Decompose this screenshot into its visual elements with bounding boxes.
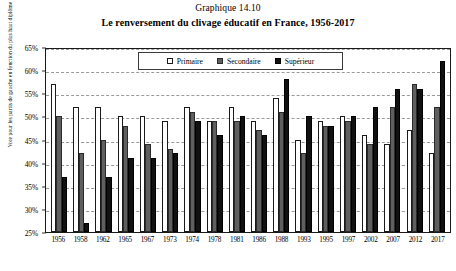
x-axis-tick-label: 1997 [337, 236, 359, 250]
bar-superieur [62, 177, 67, 233]
legend-item-secondaire: Secondaire [217, 57, 261, 66]
bar-group [270, 49, 292, 232]
bar-superieur [151, 158, 156, 232]
x-axis-tick-label: 2012 [404, 236, 426, 250]
y-axis-tick-label: 60% [8, 67, 38, 76]
legend-swatch-superieur [275, 58, 281, 64]
bar-group [137, 49, 159, 232]
x-axis-tick-label: 2002 [360, 236, 382, 250]
bar-superieur [395, 89, 400, 232]
y-axis-tick-label: 55% [8, 90, 38, 99]
y-axis-tick-label: 50% [8, 113, 38, 122]
bar-superieur [373, 107, 378, 232]
bar-group [404, 49, 426, 232]
legend-label-superieur: Supérieur [285, 57, 315, 66]
x-axis-tick-label: 1995 [315, 236, 337, 250]
bar-group [48, 49, 70, 232]
bar-superieur [284, 79, 289, 232]
y-axis-tick-label: 65% [8, 44, 38, 53]
bar-secondaire [79, 153, 84, 232]
bar-group [115, 49, 137, 232]
x-axis-tick-label: 1981 [226, 236, 248, 250]
plot-area [45, 48, 451, 233]
bar-superieur [195, 121, 200, 232]
bar-superieur [240, 116, 245, 232]
bar-group [204, 49, 226, 232]
bar-group [92, 49, 114, 232]
bar-superieur [417, 89, 422, 232]
y-axis-tick-label: 25% [8, 229, 38, 238]
bar-superieur [351, 116, 356, 232]
x-axis-tick-label: 1956 [47, 236, 69, 250]
x-axis-tick-label: 1967 [136, 236, 158, 250]
bar-group [159, 49, 181, 232]
bar-superieur [328, 126, 333, 232]
y-axis-tick-label: 30% [8, 205, 38, 214]
bar-group [381, 49, 403, 232]
x-axis-tick-label: 1978 [203, 236, 225, 250]
bar-superieur [84, 223, 89, 232]
bar-group [359, 49, 381, 232]
bar-superieur [440, 61, 445, 232]
x-axis-tick-label: 1988 [270, 236, 292, 250]
bar-group [248, 49, 270, 232]
bar-group [181, 49, 203, 232]
legend-item-superieur: Supérieur [275, 57, 315, 66]
bar-superieur [262, 135, 267, 232]
bar-superieur [128, 158, 133, 232]
legend-label-primaire: Primaire [177, 57, 203, 66]
bar-group [337, 49, 359, 232]
x-axis-tick-label: 1973 [159, 236, 181, 250]
x-axis-tick-label: 1974 [181, 236, 203, 250]
x-axis-tick-label: 1962 [92, 236, 114, 250]
legend-swatch-primaire [167, 58, 173, 64]
bar-groups [46, 49, 450, 232]
figure-number: Graphique 14.10 [0, 3, 456, 13]
y-axis-tick-label: 40% [8, 159, 38, 168]
y-axis-title: Vote pour les partis de gauche en foncti… [4, 0, 16, 172]
bar-superieur [106, 177, 111, 233]
figure-title: Le renversement du clivage éducatif en F… [0, 17, 456, 28]
x-axis-tick-label: 2017 [427, 236, 449, 250]
chart-figure: Graphique 14.10 Le renversement du cliva… [0, 0, 456, 271]
x-axis-tick-label: 1993 [293, 236, 315, 250]
bar-group [315, 49, 337, 232]
legend: Primaire Secondaire Supérieur [138, 52, 343, 70]
legend-label-secondaire: Secondaire [227, 57, 261, 66]
bar-group [70, 49, 92, 232]
x-axis-tick-label: 1965 [114, 236, 136, 250]
bar-group [226, 49, 248, 232]
legend-item-primaire: Primaire [167, 57, 203, 66]
bar-superieur [217, 135, 222, 232]
x-axis-tick-label: 1986 [248, 236, 270, 250]
y-axis-tick-label: 35% [8, 182, 38, 191]
legend-swatch-secondaire [217, 58, 223, 64]
y-axis-tick-label: 45% [8, 136, 38, 145]
bar-group [292, 49, 314, 232]
x-axis-tick-label: 1958 [69, 236, 91, 250]
bar-group [426, 49, 448, 232]
x-axis-tick-label: 2007 [382, 236, 404, 250]
x-axis-labels: 1956195819621965196719731974197819811986… [45, 236, 451, 250]
bar-superieur [306, 116, 311, 232]
bar-superieur [173, 153, 178, 232]
